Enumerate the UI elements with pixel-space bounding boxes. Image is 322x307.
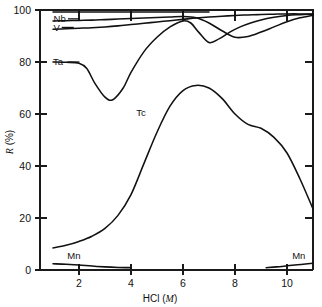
y-tick-label: 40 (19, 160, 31, 172)
y-tick-label: 20 (19, 212, 31, 224)
y-tick-label: 60 (19, 108, 31, 120)
series-label-tc: Tc (136, 107, 146, 118)
y-axis-title: R (%) (4, 130, 15, 155)
x-tick-label: 8 (232, 277, 238, 289)
chart-background (0, 0, 322, 307)
y-tick-label: 80 (19, 56, 31, 68)
series-label-ta: Ta (53, 56, 64, 67)
series-label-mn: Mn (67, 250, 80, 261)
series-label-v: V (54, 22, 61, 33)
x-tick-label: 2 (76, 277, 82, 289)
series-label-mn: Mn (292, 250, 305, 261)
x-tick-label: 6 (180, 277, 186, 289)
x-axis-title: HCl (M) (143, 293, 177, 304)
x-tick-label: 4 (128, 277, 134, 289)
y-axis-title-text: R (%) (4, 130, 15, 155)
x-tick-label: 10 (281, 277, 293, 289)
r-vs-hcl-line-chart: 246810 020406080100 NbVTaTcMnMn HCl (M) … (0, 0, 322, 307)
y-tick-label: 100 (13, 4, 31, 16)
chart-figure: 246810 020406080100 NbVTaTcMnMn HCl (M) … (0, 0, 322, 307)
y-tick-label: 0 (25, 264, 31, 276)
x-axis-title-text: HCl (M) (143, 293, 177, 304)
